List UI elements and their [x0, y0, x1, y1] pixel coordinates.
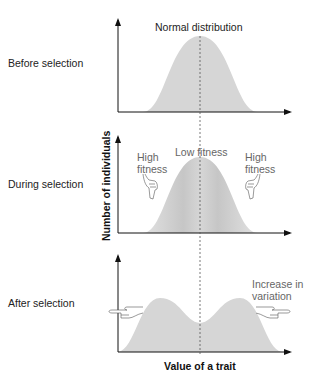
hand-pointer-down-icon: [143, 174, 157, 199]
annotation-line: High: [245, 151, 275, 163]
high-fitness-left-annotation: High fitness: [137, 151, 167, 175]
annotation-line: variation: [252, 290, 303, 302]
normal-distribution-title: Normal distribution: [155, 21, 243, 33]
hand-pointer-right-icon: [256, 307, 290, 318]
panel-before-selection: [118, 20, 290, 112]
normal-curve: [143, 36, 258, 112]
low-fitness-annotation: Low fitness: [175, 146, 228, 158]
annotation-line: High: [137, 151, 167, 163]
y-axis-label: Number of individuals: [100, 131, 112, 241]
hand-pointer-left-icon: [109, 307, 143, 318]
panel-label-after: After selection: [8, 297, 75, 309]
high-fitness-right-annotation: High fitness: [245, 151, 275, 175]
annotation-line: fitness: [245, 163, 275, 175]
panel-label-during: During selection: [8, 178, 83, 190]
hand-pointer-down-icon: [246, 174, 260, 199]
increase-variation-annotation: Increase in variation: [252, 278, 303, 302]
annotation-line: fitness: [137, 163, 167, 175]
panel-after-selection: [109, 256, 290, 352]
x-axis-label: Value of a trait: [164, 360, 236, 372]
panel-label-before: Before selection: [8, 57, 83, 69]
annotation-line: Increase in: [252, 278, 303, 290]
